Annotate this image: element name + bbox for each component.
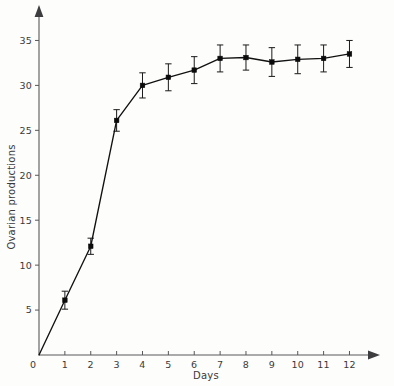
y-axis-title: Ovarian productions (6, 144, 17, 249)
y-axis-ticks: 5101520253035 (20, 35, 40, 316)
data-point-marker (244, 55, 249, 60)
line-chart: 5101520253035 123456789101112 0 Days Ova… (0, 0, 394, 386)
data-point-marker (218, 56, 223, 61)
x-tick-label: 6 (191, 359, 197, 370)
y-axis-arrow-icon (35, 5, 44, 17)
data-point-marker (192, 68, 197, 73)
data-series-line (39, 54, 349, 355)
x-axis-ticks: 123456789101112 (62, 351, 356, 370)
data-point-markers (63, 52, 352, 303)
data-point-marker (114, 118, 119, 123)
x-tick-label: 1 (62, 359, 68, 370)
data-point-marker (166, 75, 171, 80)
x-tick-label: 3 (113, 359, 119, 370)
origin-tick-label: 0 (30, 359, 36, 370)
x-tick-label: 10 (291, 359, 304, 370)
data-point-marker (270, 60, 275, 65)
data-point-marker (63, 298, 68, 303)
x-tick-label: 8 (243, 359, 249, 370)
chart-figure: 5101520253035 123456789101112 0 Days Ova… (0, 0, 394, 386)
y-tick-label: 35 (20, 35, 33, 46)
y-tick-label: 5 (26, 304, 32, 315)
x-tick-label: 12 (343, 359, 356, 370)
x-tick-label: 11 (317, 359, 330, 370)
x-axis-title: Days (193, 370, 219, 381)
y-tick-label: 30 (20, 80, 33, 91)
x-tick-label: 7 (217, 359, 223, 370)
y-tick-label: 25 (20, 125, 33, 136)
y-tick-label: 15 (20, 215, 33, 226)
y-tick-label: 20 (20, 170, 33, 181)
data-point-marker (88, 244, 93, 249)
x-tick-label: 5 (165, 359, 171, 370)
x-tick-label: 2 (88, 359, 94, 370)
data-point-marker (321, 56, 326, 61)
data-point-marker (295, 57, 300, 62)
x-axis-arrow-icon (368, 351, 380, 360)
data-point-marker (140, 83, 145, 88)
data-point-marker (347, 52, 352, 57)
x-tick-label: 4 (139, 359, 145, 370)
y-tick-label: 10 (20, 260, 33, 271)
x-tick-label: 9 (269, 359, 275, 370)
